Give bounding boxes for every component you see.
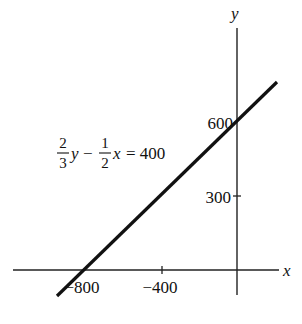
y-tick-label-300: 300	[206, 188, 232, 207]
equation-var-x: x	[112, 144, 121, 163]
equation-minus: −	[83, 144, 93, 163]
frac2-numerator: 1	[101, 135, 109, 151]
equation-var-y: y	[69, 144, 79, 163]
x-tick-label-minus-800: −800	[64, 278, 99, 297]
equation-rhs: = 400	[126, 144, 165, 163]
equation-line	[57, 82, 277, 296]
frac1-numerator: 2	[59, 135, 67, 151]
line-graph: x y 600 300 −800 −400 2 3 y − 1 2 x = 40…	[0, 0, 302, 324]
x-tick-label-minus-400: −400	[142, 278, 177, 297]
equation-label: 2 3 y − 1 2 x = 400	[57, 135, 165, 171]
y-axis-label: y	[229, 4, 239, 23]
x-axis-label: x	[282, 261, 291, 280]
frac1-denominator: 3	[59, 155, 67, 171]
frac2-denominator: 2	[101, 155, 109, 171]
